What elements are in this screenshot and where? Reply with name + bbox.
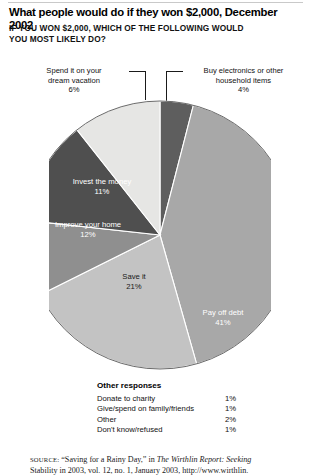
other-response-row: Other 2%: [97, 415, 247, 425]
other-response-row: Donate to charity 1%: [97, 394, 247, 404]
callout-label-vacation: Spend it on your dream vacation 6%: [22, 66, 126, 95]
callout-electronics-line1: Buy electronics or other: [186, 66, 301, 76]
pie-label-pay-off-debt-name: Pay off debt: [203, 308, 245, 317]
pie-label-pay-off-debt-pct: 41%: [215, 318, 231, 327]
source-publication: The Wirthlin Report: Seeking: [157, 455, 252, 464]
callout-electronics-percent: 4%: [186, 85, 301, 95]
pie-label-save-it-pct: 21%: [126, 282, 142, 291]
pie-chart-svg: Pay off debt 41% Save it 21% Improve you…: [49, 99, 271, 371]
pie-label-save-it-name: Save it: [122, 272, 146, 281]
other-responses-list: Donate to charity 1% Give/spend on famil…: [97, 394, 247, 436]
other-response-percent: 2%: [225, 415, 247, 425]
other-responses-heading: Other responses: [97, 381, 161, 390]
pie-label-invest-pct: 11%: [95, 187, 110, 196]
callout-vacation-line1: Spend it on your: [22, 66, 126, 76]
callout-electronics-line2: household items: [186, 76, 301, 86]
other-response-row: Don't know/refused 1%: [97, 425, 247, 435]
pie-chart: Pay off debt 41% Save it 21% Improve you…: [49, 99, 271, 371]
source-in-word: in: [148, 455, 154, 464]
leader-line-electronics-horizontal: [166, 71, 183, 72]
other-response-percent: 1%: [225, 425, 247, 435]
pie-label-improve-home-pct: 12%: [80, 230, 96, 239]
leader-line-vacation-horizontal: [129, 71, 146, 72]
leader-line-vacation-vertical: [145, 71, 146, 100]
source-quoted-title: “Saving for a Rainy Day,”: [61, 455, 146, 464]
other-response-label: Donate to charity: [97, 394, 155, 404]
source-line2: Stability in 2003, vol. 12, no. 1, Janua…: [30, 466, 295, 476]
leader-line-electronics-vertical: [166, 71, 167, 102]
pie-label-improve-home-name: Improve your home: [55, 220, 121, 229]
other-response-label: Don't know/refused: [97, 425, 163, 435]
other-response-percent: 1%: [225, 394, 247, 404]
source-note: SOURCE: “Saving for a Rainy Day,” in The…: [30, 455, 295, 476]
header-divider: [8, 2, 303, 3]
chart-page: What people would do if they won $2,000,…: [0, 0, 311, 476]
callout-vacation-percent: 6%: [22, 85, 126, 95]
callout-vacation-line2: dream vacation: [22, 76, 126, 86]
other-response-row: Give/spend on family/friends 1%: [97, 404, 247, 414]
pie-label-invest-name: Invest the money: [73, 177, 132, 186]
callout-label-electronics: Buy electronics or other household items…: [186, 66, 301, 95]
other-response-label: Give/spend on family/friends: [97, 404, 194, 414]
other-response-percent: 1%: [225, 404, 247, 414]
question-subtitle: IF YOU WON $2,000, WHICH OF THE FOLLOWIN…: [9, 23, 259, 44]
other-response-label: Other: [97, 415, 116, 425]
source-prefix: SOURCE:: [30, 456, 59, 463]
